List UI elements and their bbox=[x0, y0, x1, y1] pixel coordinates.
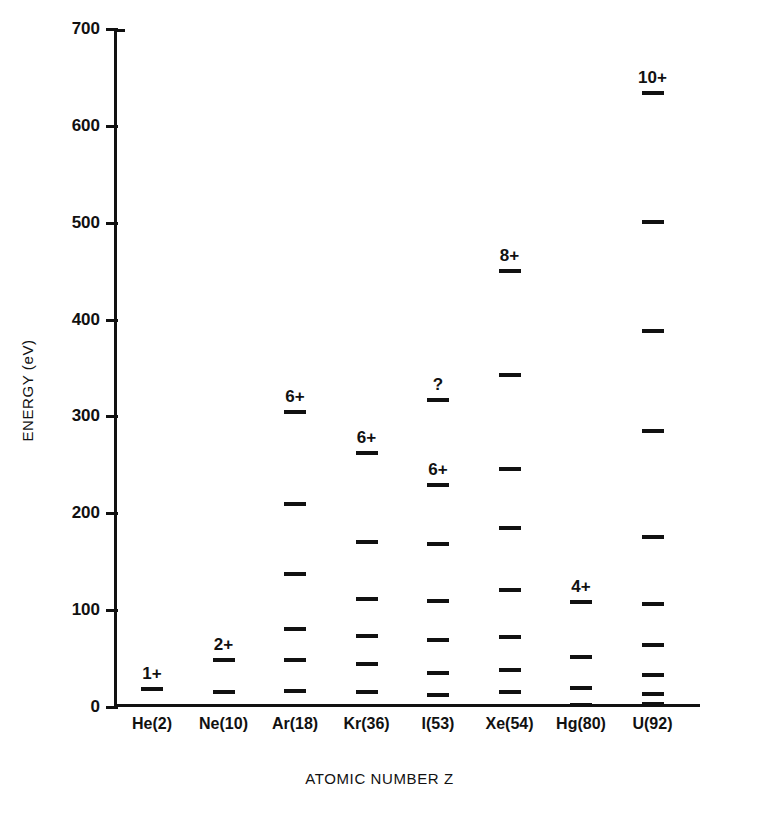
energy-level-marker bbox=[499, 467, 521, 471]
energy-level-marker bbox=[427, 693, 449, 697]
y-tick-label-0: 0 bbox=[40, 698, 100, 715]
energy-level-marker bbox=[284, 689, 306, 693]
y-tick-label-200: 200 bbox=[40, 504, 100, 521]
charge-state-label: 1+ bbox=[122, 665, 182, 682]
energy-level-marker bbox=[570, 655, 592, 659]
energy-level-marker bbox=[356, 451, 378, 455]
energy-level-marker bbox=[213, 690, 235, 694]
energy-level-marker bbox=[284, 658, 306, 662]
energy-level-marker bbox=[499, 635, 521, 639]
energy-level-marker bbox=[499, 588, 521, 592]
energy-level-marker bbox=[570, 686, 592, 690]
energy-level-marker bbox=[356, 690, 378, 694]
energy-level-chart: ENERGY (eV) 0100200300400500600700 1+2+6… bbox=[0, 0, 759, 813]
energy-level-marker bbox=[356, 634, 378, 638]
y-tick-label-600: 600 bbox=[40, 117, 100, 134]
energy-level-marker bbox=[141, 687, 163, 691]
charge-state-label: 6+ bbox=[408, 461, 468, 478]
energy-level-marker bbox=[284, 572, 306, 576]
energy-level-marker bbox=[284, 410, 306, 414]
energy-level-marker bbox=[499, 373, 521, 377]
energy-level-marker bbox=[284, 627, 306, 631]
energy-level-marker bbox=[499, 526, 521, 530]
y-tick-label-100: 100 bbox=[40, 601, 100, 618]
charge-state-label: 2+ bbox=[194, 636, 254, 653]
energy-level-marker bbox=[427, 671, 449, 675]
energy-level-marker bbox=[499, 668, 521, 672]
plot-area: 1+2+6+6+?6+8+4+10+ bbox=[114, 29, 700, 707]
energy-level-marker bbox=[427, 398, 449, 402]
energy-level-marker bbox=[570, 703, 592, 707]
energy-level-marker bbox=[284, 502, 306, 506]
energy-level-marker bbox=[642, 535, 664, 539]
energy-level-marker bbox=[427, 599, 449, 603]
charge-state-label: 6+ bbox=[337, 429, 397, 446]
energy-level-marker bbox=[642, 643, 664, 647]
charge-state-label: 6+ bbox=[265, 388, 325, 405]
energy-level-marker bbox=[427, 542, 449, 546]
charge-state-label: 10+ bbox=[623, 69, 683, 86]
x-category-label-U: U(92) bbox=[608, 716, 698, 732]
y-tick-label-500: 500 bbox=[40, 214, 100, 231]
energy-level-marker bbox=[642, 91, 664, 95]
energy-level-marker bbox=[642, 602, 664, 606]
energy-level-marker bbox=[427, 483, 449, 487]
energy-level-marker bbox=[642, 702, 664, 706]
energy-level-marker bbox=[499, 269, 521, 273]
charge-state-label: 4+ bbox=[551, 578, 611, 595]
energy-level-marker bbox=[642, 220, 664, 224]
energy-level-marker bbox=[642, 673, 664, 677]
y-tick-label-400: 400 bbox=[40, 311, 100, 328]
energy-level-marker bbox=[356, 597, 378, 601]
energy-level-marker bbox=[213, 658, 235, 662]
y-tick-label-300: 300 bbox=[40, 407, 100, 424]
energy-level-marker bbox=[642, 692, 664, 696]
energy-level-marker bbox=[356, 540, 378, 544]
y-tick-label-700: 700 bbox=[40, 20, 100, 37]
charge-state-label: 8+ bbox=[480, 247, 540, 264]
energy-level-marker bbox=[499, 690, 521, 694]
energy-level-marker bbox=[427, 638, 449, 642]
y-axis-title: ENERGY (eV) bbox=[19, 301, 36, 481]
energy-level-marker bbox=[356, 662, 378, 666]
energy-level-marker bbox=[642, 329, 664, 333]
energy-level-marker bbox=[642, 429, 664, 433]
x-axis-title: ATOMIC NUMBER Z bbox=[0, 770, 759, 787]
energy-level-marker bbox=[570, 600, 592, 604]
charge-state-label: ? bbox=[408, 376, 468, 393]
